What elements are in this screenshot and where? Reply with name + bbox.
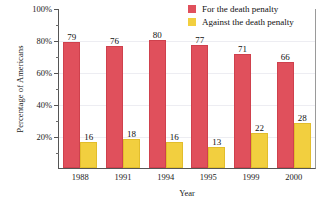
- y-tick-label: 20%: [36, 132, 52, 142]
- bar-value-label: 77: [195, 35, 204, 45]
- x-tick-label: 1991: [115, 172, 132, 182]
- legend-label-against: Against the death penalty: [202, 17, 294, 27]
- plot-area: 100%80%60%40%20% 79161988761819918016199…: [58, 9, 316, 169]
- bar[interactable]: 71: [234, 54, 251, 168]
- bar-value-label: 16: [84, 132, 93, 142]
- y-tick-label: 100%: [32, 4, 52, 14]
- bar-group: 80161994: [144, 9, 187, 168]
- bar[interactable]: 76: [106, 46, 123, 168]
- bar-chart: Percentage of Americans 100%80%60%40%20%…: [0, 0, 331, 207]
- y-tick-label: 80%: [36, 36, 52, 46]
- bar-group: 66282000: [272, 9, 315, 168]
- legend-item-for: For the death penalty: [188, 3, 294, 15]
- y-tick-label: 60%: [36, 68, 52, 78]
- bar[interactable]: 66: [277, 62, 294, 168]
- bar[interactable]: 79: [63, 42, 80, 168]
- bar[interactable]: 18: [123, 139, 140, 168]
- bar-value-label: 13: [212, 137, 221, 147]
- bar[interactable]: 77: [191, 45, 208, 168]
- bar[interactable]: 22: [251, 133, 268, 168]
- legend: For the death penalty Against the death …: [188, 3, 294, 29]
- bar-value-label: 79: [67, 32, 76, 42]
- bar-group: 71221999: [230, 9, 273, 168]
- x-tick-label: 1988: [72, 172, 89, 182]
- red-swatch-icon: [188, 5, 196, 13]
- legend-item-against: Against the death penalty: [188, 16, 294, 28]
- x-tick-label: 2000: [285, 172, 302, 182]
- bar[interactable]: 16: [80, 142, 97, 168]
- y-axis-title: Percentage of Americans: [15, 14, 25, 164]
- bar-group: 76181991: [102, 9, 145, 168]
- bar[interactable]: 13: [208, 147, 225, 168]
- legend-label-for: For the death penalty: [202, 4, 278, 14]
- bar-value-label: 80: [153, 30, 162, 40]
- x-tick-label: 1995: [200, 172, 217, 182]
- bar-value-label: 16: [170, 132, 179, 142]
- x-tick-label: 1994: [157, 172, 174, 182]
- bar-group: 77131995: [187, 9, 230, 168]
- bar-group: 79161988: [59, 9, 102, 168]
- bar-groups: 7916198876181991801619947713199571221999…: [59, 9, 315, 168]
- y-tick-label: 40%: [36, 100, 52, 110]
- bar-value-label: 76: [110, 36, 119, 46]
- bar-value-label: 66: [281, 52, 290, 62]
- bar-value-label: 28: [298, 113, 307, 123]
- yellow-swatch-icon: [188, 18, 196, 26]
- bar[interactable]: 80: [149, 40, 166, 168]
- bar-value-label: 18: [127, 129, 136, 139]
- bar[interactable]: 16: [166, 142, 183, 168]
- x-axis-title: Year: [58, 188, 316, 198]
- x-tick-label: 1999: [243, 172, 260, 182]
- bar-value-label: 22: [255, 123, 264, 133]
- bar[interactable]: 28: [294, 123, 311, 168]
- bar-value-label: 71: [238, 44, 247, 54]
